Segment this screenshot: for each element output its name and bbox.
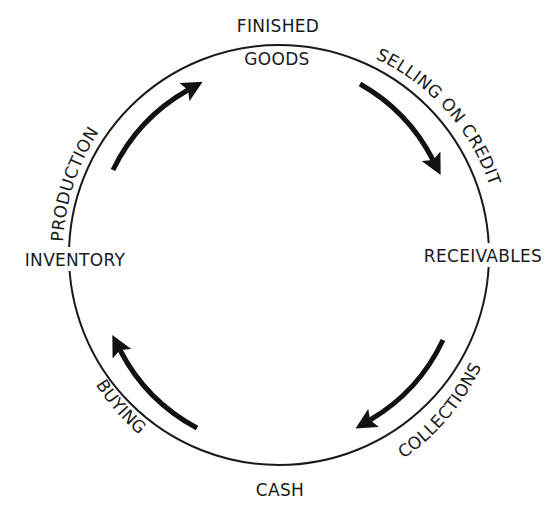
node-finished-goods-line1: FINISHED [237, 16, 319, 36]
flow-production-text: PRODUCTION [47, 123, 103, 242]
flow-production-label: PRODUCTION [47, 123, 103, 242]
node-finished-goods-line2: GOODS [244, 49, 309, 69]
collections-arrow-icon [370, 340, 443, 420]
node-cash: CASH [256, 480, 304, 500]
node-receivables: RECEIVABLES [424, 246, 542, 266]
flow-collections-label: COLLECTIONS [394, 359, 485, 462]
node-inventory: INVENTORY [25, 250, 126, 270]
production-arrow-icon [113, 90, 188, 170]
flow-collections-text: COLLECTIONS [394, 359, 485, 462]
cash-cycle-diagram: FINISHED GOODS INVENTORY RECEIVABLES CAS… [0, 0, 559, 505]
flow-selling-label: SELLING ON CREDIT [374, 44, 506, 188]
flow-selling-text: SELLING ON CREDIT [374, 44, 506, 188]
selling-arrow-icon [360, 84, 433, 160]
